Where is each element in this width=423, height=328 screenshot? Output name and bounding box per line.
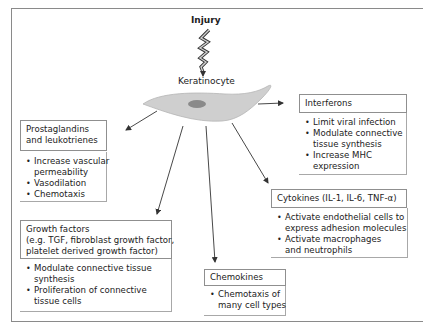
list-item: Vasodilation	[26, 178, 102, 189]
list-item: Chemotaxis ofmany cell types	[210, 289, 281, 311]
growth-factors-effects: Modulate connective tissuesynthesis Prol…	[20, 259, 172, 312]
chemokines-effects: Chemotaxis ofmany cell types	[204, 286, 286, 316]
keratinocyte-cell-icon	[143, 85, 271, 121]
cytokines-header: Cytokines (IL-1, IL-6, TNF-α)	[271, 189, 407, 208]
nucleus-icon	[188, 100, 206, 108]
arrow-to-growth-factors	[157, 126, 183, 214]
list-item: Increase vascularpermeability	[26, 156, 102, 178]
prostaglandins-header: Prostaglandins and leukotrienes	[20, 120, 107, 151]
header-line: platelet derived growth factor)	[26, 246, 166, 257]
injury-bolt-icon	[200, 30, 209, 76]
header-line: and leukotrienes	[26, 135, 101, 146]
arrow-to-chemokines	[206, 126, 215, 262]
header-line: Growth factors	[26, 224, 166, 235]
list-item: Activate endothelial cells toexpress adh…	[277, 212, 403, 234]
header-line: (e.g. TGF, fibroblast growth factor,	[26, 235, 166, 246]
chemokines-header: Chemokines	[204, 269, 286, 286]
arrow-to-cytokines	[232, 123, 268, 183]
keratinocyte-label: Keratinocyte	[178, 76, 235, 87]
list-item: Limit viral infection	[305, 117, 402, 128]
interferons-effects: Limit viral infection Modulate connectiv…	[299, 113, 407, 175]
arrow-to-interferons	[258, 103, 283, 104]
header-line: Prostaglandins	[26, 124, 101, 135]
header-line: Interferons	[305, 98, 401, 109]
list-item: Modulate connectivetissue synthesis	[305, 128, 402, 150]
list-item: Modulate connective tissuesynthesis	[26, 263, 167, 285]
list-item: Chemotaxis	[26, 189, 102, 200]
arrow-to-prostaglandins	[126, 111, 157, 130]
cytokines-effects: Activate endothelial cells toexpress adh…	[271, 208, 408, 258]
list-item: Activate macrophagesand neutrophils	[277, 234, 403, 256]
header-line: Cytokines (IL-1, IL-6, TNF-α)	[277, 193, 401, 204]
header-line: Chemokines	[210, 272, 280, 283]
list-item: Proliferation of connectivetissue cells	[26, 285, 167, 307]
list-item: Increase MHCexpression	[305, 150, 402, 172]
injury-label: Injury	[191, 15, 221, 26]
growth-factors-header: Growth factors (e.g. TGF, fibroblast gro…	[20, 220, 172, 259]
interferons-header: Interferons	[299, 94, 407, 113]
prostaglandins-effects: Increase vascularpermeability Vasodilati…	[20, 152, 107, 202]
